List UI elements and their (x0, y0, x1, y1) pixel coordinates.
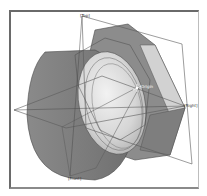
model-graphics[interactable] (0, 0, 207, 196)
right-plane-label: [Right] (184, 103, 198, 108)
top-plane-label: [Top] (80, 13, 90, 18)
front-plane-label: [Front] (68, 176, 81, 181)
origin-label: Origin (141, 84, 153, 89)
